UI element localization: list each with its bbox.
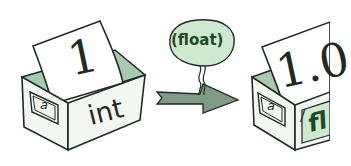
cast-arrow bbox=[157, 84, 238, 113]
crossed-out-mark: / bbox=[300, 106, 305, 125]
cast-bubble-text: (float) bbox=[171, 31, 223, 49]
left-variable-label: a bbox=[40, 97, 48, 112]
right-value-text: 1.0 bbox=[272, 35, 351, 95]
right-variable-label: a bbox=[267, 98, 275, 113]
